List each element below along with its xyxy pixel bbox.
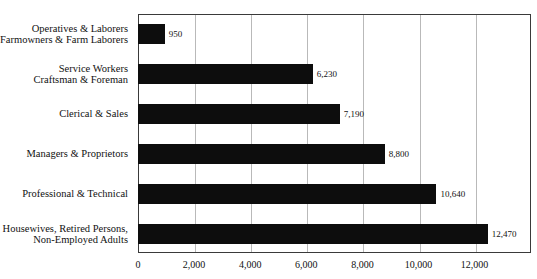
- x-tick-label: 0: [136, 258, 141, 272]
- bar-value-label: 7,190: [344, 104, 364, 124]
- category-label: Professional & Technical: [0, 188, 133, 200]
- x-axis-tick-labels: 02,0004,0006,0008,00010,00012,000: [0, 258, 537, 274]
- category-label: Service WorkersCraftsman & Foreman: [0, 63, 133, 86]
- bar: [138, 224, 488, 244]
- bar: [138, 64, 313, 84]
- category-label-line: Service Workers: [0, 63, 128, 75]
- bar-value-label: 12,470: [492, 224, 517, 244]
- chart-title: [0, 0, 537, 2]
- x-tick-label: 8,000: [351, 258, 374, 272]
- x-tick-label: 10,000: [405, 258, 433, 272]
- category-label-line: Clerical & Sales: [0, 108, 128, 120]
- category-label: Clerical & Sales: [0, 108, 133, 120]
- category-label-line: Housewives, Retired Persons,: [0, 223, 128, 235]
- category-label-line: Farmowners & Farm Laborers: [0, 34, 128, 46]
- bar: [138, 144, 385, 164]
- category-label-line: Managers & Proprietors: [0, 148, 128, 160]
- bar: [138, 184, 436, 204]
- bar-value-label: 6,230: [317, 64, 337, 84]
- x-tick-label: 12,000: [461, 258, 489, 272]
- category-axis-labels: Operatives & LaborersFarmowners & Farm L…: [0, 14, 133, 253]
- x-tick-label: 2,000: [183, 258, 206, 272]
- category-label-line: Craftsman & Foreman: [0, 74, 128, 86]
- x-tick-label: 4,000: [239, 258, 262, 272]
- bar-value-label: 8,800: [389, 144, 409, 164]
- bar-value-label: 950: [169, 24, 183, 44]
- category-label: Housewives, Retired Persons,Non-Employed…: [0, 223, 133, 246]
- bar-chart: Operatives & LaborersFarmowners & Farm L…: [0, 0, 537, 279]
- category-label-line: Operatives & Laborers: [0, 23, 128, 35]
- category-label-line: Professional & Technical: [0, 188, 128, 200]
- bar-value-label: 10,640: [440, 184, 465, 204]
- bars-layer: 9506,2307,1908,80010,64012,470: [138, 14, 531, 253]
- x-tick-label: 6,000: [295, 258, 318, 272]
- category-label: Managers & Proprietors: [0, 148, 133, 160]
- bar: [138, 104, 340, 124]
- category-label: Operatives & LaborersFarmowners & Farm L…: [0, 23, 133, 46]
- category-label-line: Non-Employed Adults: [0, 234, 128, 246]
- bar: [138, 24, 165, 44]
